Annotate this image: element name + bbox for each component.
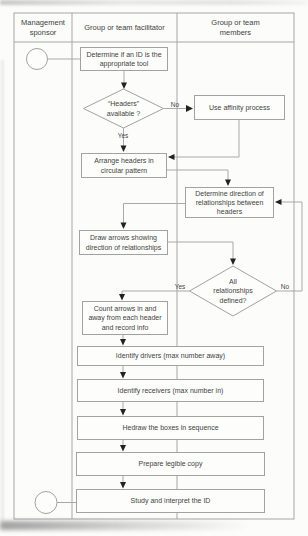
edge-direction-to-draw [124,204,186,229]
node-identify-drivers: Identify drivers (max number away) [77,346,264,366]
swimlane-frame [14,13,294,519]
node-draw-arrows: Draw arrows showing direction of relatio… [79,230,168,255]
lane-header-sponsor-label: Management sponsor [17,18,69,38]
node-redraw-boxes: Hedraw the boxes in sequence [77,416,264,440]
arrowhead-into-headers-diamond [121,83,127,90]
edge-arrange-to-direction [167,170,228,185]
arrowhead-into-redraw [120,409,126,416]
lane-header-facilitator-label: Group or team facilitator [84,23,164,33]
edge-draw-to-alldefined [168,242,233,264]
edge-label-no-2: No [277,282,293,291]
decision-all-defined-label: All relationships defined? [205,275,261,307]
node-arrange-headers: Arrange headers in circular pattern [81,153,167,178]
arrowhead-into-alldefined [230,259,236,266]
node-count-arrows: Count arrows in and away from each heade… [82,301,168,335]
edge-label-no-1: No [168,100,182,109]
arrowhead-feedback-into-direction [275,199,282,205]
start-circle [27,49,48,70]
edge-label-yes-2: Yes [170,282,190,291]
arrowhead-into-count [119,294,125,301]
node-identify-receivers: Identify receivers (max number in) [77,379,264,402]
flowchart-page: Management sponsor Group or team facilit… [0,0,308,536]
arrowhead-into-prepare [120,445,126,452]
edge-label-yes-1: Yes [112,131,134,140]
node-study-interpret: Study and interpret the ID [76,489,265,513]
arrowhead-into-draw [121,223,127,230]
arrowhead-into-affinity [186,105,193,112]
edge-affinity-to-arrange [169,120,239,157]
lane-header-facilitator: Group or team facilitator [72,13,177,42]
node-determine-direction: Determine direction of relationships bet… [185,187,274,218]
arrowhead-into-arrange-top [121,146,127,153]
arrowhead-into-arrange-side [168,154,175,160]
decision-headers-available-label: “Headers” available ? [93,94,154,123]
end-circle [35,492,57,514]
arrowhead-into-drivers [120,339,126,346]
node-use-affinity: Use affinity process [194,95,285,120]
lane-header-sponsor: Management sponsor [14,13,72,42]
node-prepare-copy: Prepare legible copy [76,452,265,476]
node-determine-tool: Determine if an ID is the appropriate to… [80,47,168,71]
lane-header-members-label: Group or team members [201,18,271,38]
arrowhead-into-study [120,482,126,489]
lane-header-members: Group or team members [177,13,294,42]
edge-alldefined-no-feedback [276,202,302,291]
edge-alldefined-yes [122,291,190,299]
arrowhead-into-direction-top [225,180,231,187]
arrowhead-into-receivers [120,372,126,379]
